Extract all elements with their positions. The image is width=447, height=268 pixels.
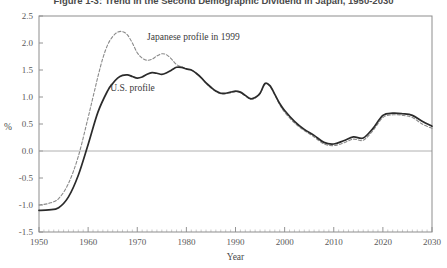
y-tick-label: 2.5 <box>22 11 34 21</box>
y-tick-label: 0.0 <box>22 146 34 156</box>
x-tick-label: 2000 <box>276 237 295 247</box>
series-line-us-profile <box>39 67 432 210</box>
x-tick-label: 1970 <box>128 237 147 247</box>
y-tick-label: 1.0 <box>22 92 34 102</box>
y-axis-title: % <box>4 122 12 132</box>
y-tick-label: -1.5 <box>19 227 34 237</box>
series-line-japanese-profile <box>39 31 432 205</box>
y-tick-label: -0.5 <box>19 173 34 183</box>
y-tick-label: 1.5 <box>22 65 34 75</box>
x-tick-label: 2020 <box>374 237 393 247</box>
y-tick-label: -1.0 <box>19 200 34 210</box>
x-tick-label: 1950 <box>30 237 49 247</box>
x-tick-label: 1960 <box>79 237 98 247</box>
x-axis-title: Year <box>227 252 245 262</box>
x-tick-label: 1980 <box>177 237 196 247</box>
x-tick-label: 2030 <box>423 237 442 247</box>
chart-figure: Figure 1-3: Trend in the Second Demograp… <box>0 0 447 268</box>
y-tick-label: 0.5 <box>22 119 34 129</box>
annotation-us-profile: U.S. profile <box>110 83 155 93</box>
plot-frame <box>39 16 432 232</box>
chart-plot-area: 2.52.01.51.00.50.0-0.5-1.0-1.5 195019601… <box>0 0 447 268</box>
x-tick-label: 2010 <box>325 237 344 247</box>
x-tick-label: 1990 <box>227 237 246 247</box>
annotation-japanese-profile: Japanese profile in 1999 <box>147 32 240 42</box>
y-tick-label: 2.0 <box>22 38 34 48</box>
x-axis-ticks: 195019601970198019902000201020202030 <box>30 227 442 247</box>
